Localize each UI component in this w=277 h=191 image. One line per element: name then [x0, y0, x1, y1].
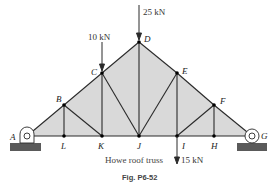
ground-block-left: [10, 143, 41, 151]
node-label-D: D: [143, 34, 151, 44]
joint-B: [62, 103, 66, 107]
node-label-A: A: [9, 132, 16, 142]
diagram-caption: Howe roof truss: [105, 155, 163, 165]
node-label-B: B: [56, 94, 62, 104]
joint-K: [100, 134, 104, 138]
truss-diagram: 25 kN 10 kN 15 kN A B C D E F G H I J K …: [0, 0, 277, 191]
load-25-arrow-head-icon: [137, 33, 142, 40]
ground-block-right: [237, 143, 267, 151]
joint-F: [212, 103, 216, 107]
node-label-G: G: [261, 131, 268, 141]
node-label-L: L: [60, 141, 66, 151]
node-label-H: H: [210, 141, 218, 151]
node-label-C: C: [91, 67, 98, 77]
load-10-arrow-head-icon: [100, 64, 105, 71]
load-25-label: 25 kN: [143, 7, 166, 17]
joint-J: [137, 134, 141, 138]
node-label-F: F: [219, 96, 226, 106]
node-label-K: K: [97, 141, 105, 151]
howe-roof-truss-figure: 25 kN 10 kN 15 kN A B C D E F G H I J K …: [0, 0, 277, 191]
roller-inner-icon: [249, 133, 255, 139]
node-label-J: J: [137, 141, 142, 151]
load-10-label: 10 kN: [88, 32, 111, 42]
joint-H: [212, 134, 216, 138]
joint-L: [62, 134, 66, 138]
load-15-label: 15 kN: [181, 155, 204, 165]
pin-icon: [24, 133, 30, 139]
joint-E: [175, 71, 179, 75]
figure-label: Fig. P6-52: [122, 173, 157, 182]
node-label-E: E: [181, 66, 188, 76]
node-label-I: I: [181, 141, 186, 151]
load-15-arrow-head-icon: [175, 157, 180, 164]
